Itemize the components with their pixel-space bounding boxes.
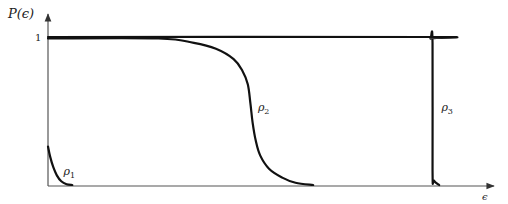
series-label-ρ2: ρ2 xyxy=(257,101,270,116)
series-line-ρ2 xyxy=(48,38,313,185)
series-line-ρ3 xyxy=(48,31,457,185)
y-tick-label: 1 xyxy=(35,32,41,43)
chart: P(ϵ) 1 ϵ ρ1ρ2ρ3 xyxy=(0,0,508,204)
series-label-ρ3: ρ3 xyxy=(440,101,453,116)
y-axis-label: P(ϵ) xyxy=(7,6,34,21)
x-axis-label: ϵ xyxy=(482,191,488,202)
series-label-ρ1: ρ1 xyxy=(63,165,76,180)
